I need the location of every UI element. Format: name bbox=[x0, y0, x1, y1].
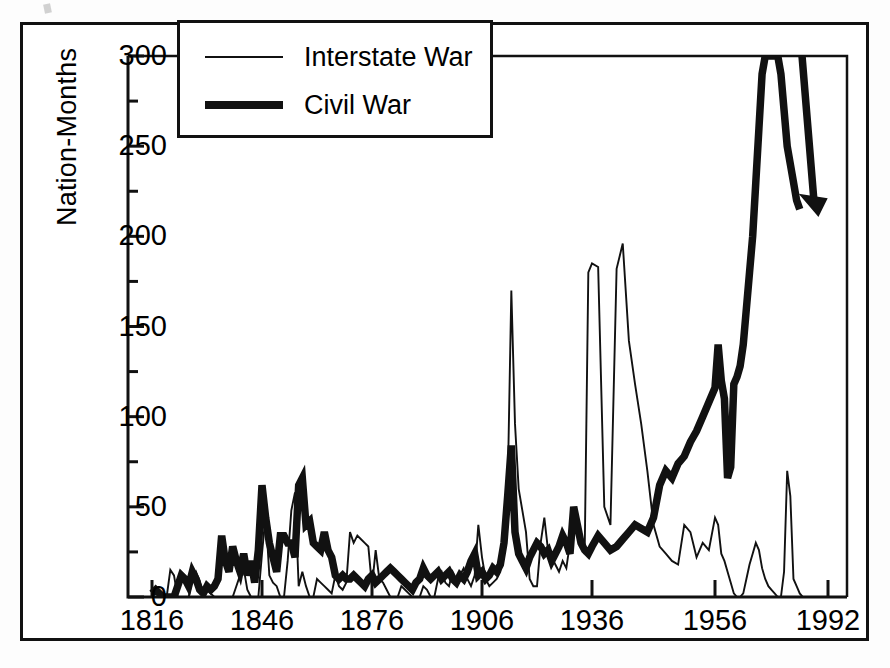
scan-artifact bbox=[43, 3, 52, 13]
x-tick-label: 1992 bbox=[768, 606, 888, 635]
y-tick-label: 50 bbox=[57, 492, 167, 521]
y-tick-label: 150 bbox=[57, 312, 167, 341]
legend-label-civil-war: Civil War bbox=[304, 90, 411, 121]
thick-line-swatch bbox=[198, 101, 290, 109]
x-tick-label: 1906 bbox=[422, 606, 542, 635]
x-tick-label: 1956 bbox=[655, 606, 775, 635]
y-tick-label: 300 bbox=[57, 41, 167, 70]
y-tick-label: 100 bbox=[57, 402, 167, 431]
legend-item-civil-war: Civil War bbox=[180, 81, 490, 129]
legend-item-interstate-war: Interstate War bbox=[180, 33, 490, 81]
x-tick-label: 1816 bbox=[92, 606, 212, 635]
x-tick-label: 1936 bbox=[532, 606, 652, 635]
figure-page: Nation-Months 050100150200250300 1816184… bbox=[0, 0, 890, 668]
y-tick-label: 250 bbox=[57, 131, 167, 160]
chart-legend: Interstate War Civil War bbox=[177, 20, 493, 138]
legend-label-interstate-war: Interstate War bbox=[304, 42, 473, 73]
thin-line-swatch bbox=[198, 56, 290, 58]
y-axis-title: Nation-Months bbox=[52, 0, 83, 226]
x-tick-label: 1876 bbox=[312, 606, 432, 635]
y-tick-label: 200 bbox=[57, 221, 167, 250]
x-tick-label: 1846 bbox=[202, 606, 322, 635]
